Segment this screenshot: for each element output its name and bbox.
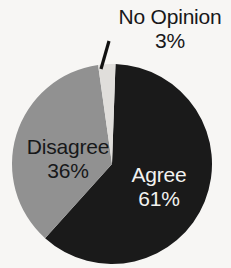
pie-label-no-opinion-name: No Opinion (118, 5, 221, 28)
pie-chart: No Opinion 3% Disagree 36% Agree 61% (0, 0, 231, 268)
pie-label-disagree: Disagree 36% (16, 136, 120, 182)
pie-label-disagree-percent: 36% (16, 160, 120, 181)
pie-label-disagree-name: Disagree (27, 135, 109, 158)
pie-label-no-opinion: No Opinion 3% (113, 6, 227, 52)
pie-label-agree-percent: 61% (117, 188, 201, 209)
pie-label-agree-name: Agree (131, 163, 186, 186)
pie-label-agree: Agree 61% (117, 164, 201, 210)
pie-label-no-opinion-percent: 3% (113, 30, 227, 51)
